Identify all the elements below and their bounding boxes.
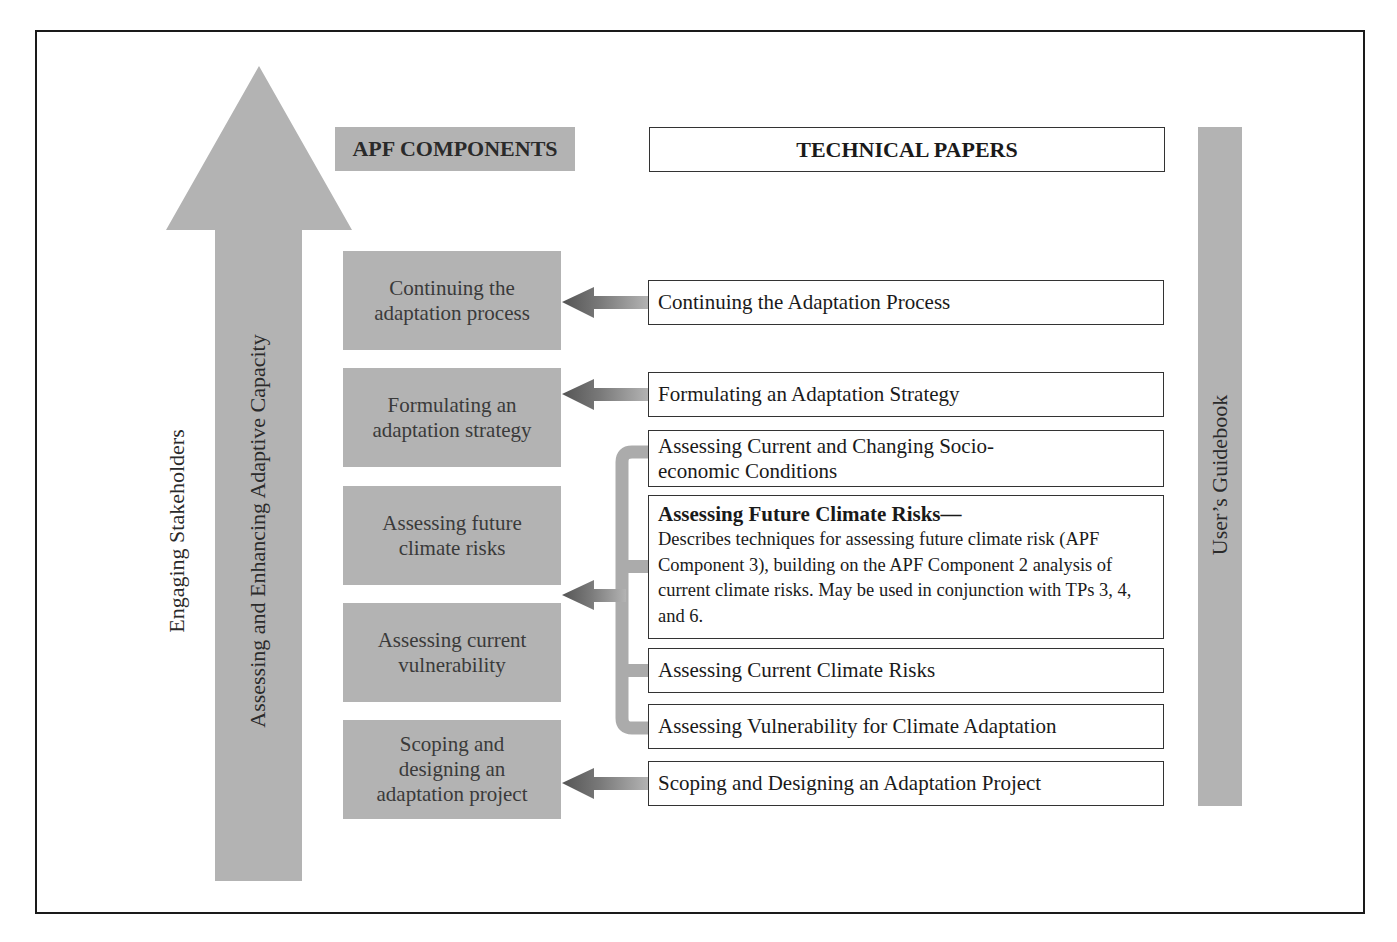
tp-formulating: Formulating an Adaptation Strategy (648, 372, 1164, 417)
tp-description: Describes techniques for assessing futur… (658, 527, 1153, 629)
arrow-left-icon (562, 379, 648, 410)
tp-title: Assessing Future Climate Risks— (658, 502, 1163, 527)
tp-title: Continuing the Adaptation Process (658, 290, 1163, 315)
tp-future-climate-risks: Assessing Future Climate Risks— Describe… (648, 495, 1164, 639)
tp-title: Formulating an Adaptation Strategy (658, 382, 1163, 407)
tp-socio-economic: Assessing Current and Changing Socio-eco… (648, 430, 1164, 487)
tp-current-climate-risks: Assessing Current Climate Risks (648, 648, 1164, 693)
tp-title: Scoping and Designing an Adaptation Proj… (658, 771, 1163, 796)
tp-continuing: Continuing the Adaptation Process (648, 280, 1164, 325)
tp-vulnerability: Assessing Vulnerability for Climate Adap… (648, 704, 1164, 749)
tp-title: Assessing Current Climate Risks (658, 658, 1163, 683)
arrow-left-icon (562, 287, 648, 318)
tp-title: Assessing Current and Changing Socio-eco… (658, 434, 1018, 484)
arrow-left-icon (562, 768, 648, 799)
tp-title: Assessing Vulnerability for Climate Adap… (658, 714, 1163, 739)
tp-scoping: Scoping and Designing an Adaptation Proj… (648, 761, 1164, 806)
